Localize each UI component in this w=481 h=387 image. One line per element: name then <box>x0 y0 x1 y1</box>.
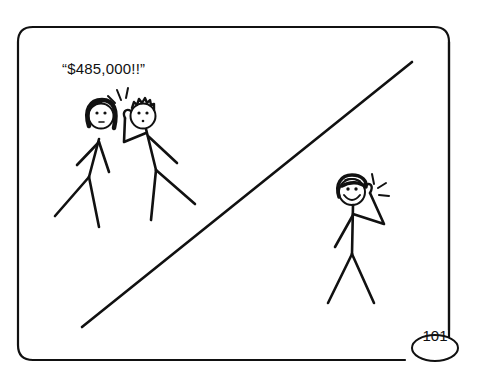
woman-leg-left <box>55 177 89 216</box>
man-eye-right <box>145 111 148 114</box>
woman-arm-right <box>99 142 109 172</box>
phone-woman-arm-left <box>335 215 353 247</box>
man-mouth <box>142 120 145 123</box>
speech-quote: “$485,000!!” <box>62 60 145 77</box>
woman-eye-left <box>95 111 98 114</box>
woman-head <box>89 104 114 129</box>
man-eye-left <box>137 111 140 114</box>
phone-woman-eye-left <box>346 187 349 190</box>
sound-marks-right <box>372 174 389 196</box>
page-number: 101 <box>412 325 458 347</box>
man-listening-figure <box>124 98 195 220</box>
comic-panel <box>0 0 481 387</box>
man-leg-right <box>156 170 195 204</box>
woman-eye-right <box>103 111 106 114</box>
phone-woman-eye-right <box>354 187 357 190</box>
woman-listening-figure <box>55 100 116 227</box>
phone-woman-body <box>352 205 353 254</box>
woman-on-phone-figure <box>328 175 384 303</box>
man-head <box>131 104 156 129</box>
phone-woman-leg-left <box>328 254 352 303</box>
phone-woman-leg-right <box>352 254 374 303</box>
man-leg-left <box>151 170 156 220</box>
woman-leg-right <box>89 177 99 227</box>
